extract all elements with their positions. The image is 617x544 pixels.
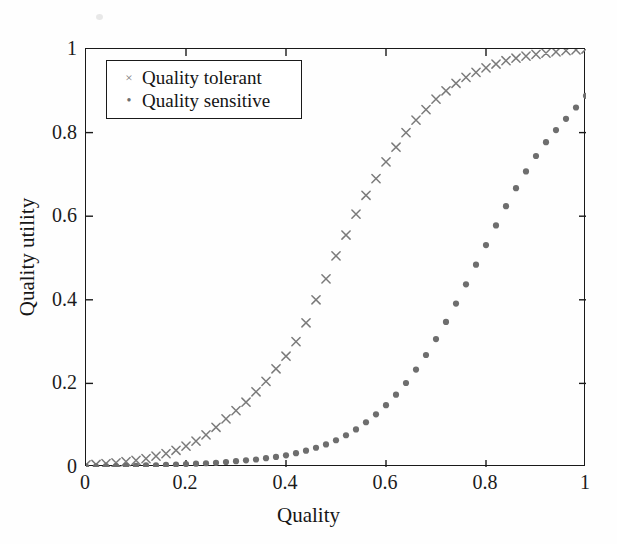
x-tick-label-0_4: 0.4 [273,472,298,492]
x-tick-label-1: 1 [580,472,590,492]
y-axis-label-container: Quality utility [12,0,42,544]
figure-canvas: Quality utility 0 0.2 0.4 0.6 0.8 1 0 0.… [0,0,617,544]
legend-label-quality-tolerant: Quality tolerant [142,67,262,89]
legend-box: × Quality tolerant • Quality sensitive [106,60,302,119]
cross-marker-icon: × [116,71,142,84]
y-tick-label-0_6: 0.6 [33,205,77,225]
y-tick-label-0_2: 0.2 [33,372,77,392]
x-axis-label: Quality [0,503,617,528]
legend-label-quality-sensitive: Quality sensitive [142,90,270,112]
legend-item-quality-tolerant: × Quality tolerant [107,66,301,89]
legend-item-quality-sensitive: • Quality sensitive [107,89,301,112]
scan-artifact [96,14,103,20]
y-tick-label-1: 1 [55,38,77,58]
x-tick-label-0: 0 [80,472,90,492]
x-tick-label-0_2: 0.2 [173,472,198,492]
y-tick-label-0_8: 0.8 [33,122,77,142]
x-tick-label-0_6: 0.6 [373,472,398,492]
y-tick-label-0_4: 0.4 [33,289,77,309]
dot-marker-icon: • [116,94,142,108]
series-quality-sensitive [86,93,586,467]
x-tick-label-0_8: 0.8 [473,472,498,492]
y-tick-label-0: 0 [55,456,77,476]
